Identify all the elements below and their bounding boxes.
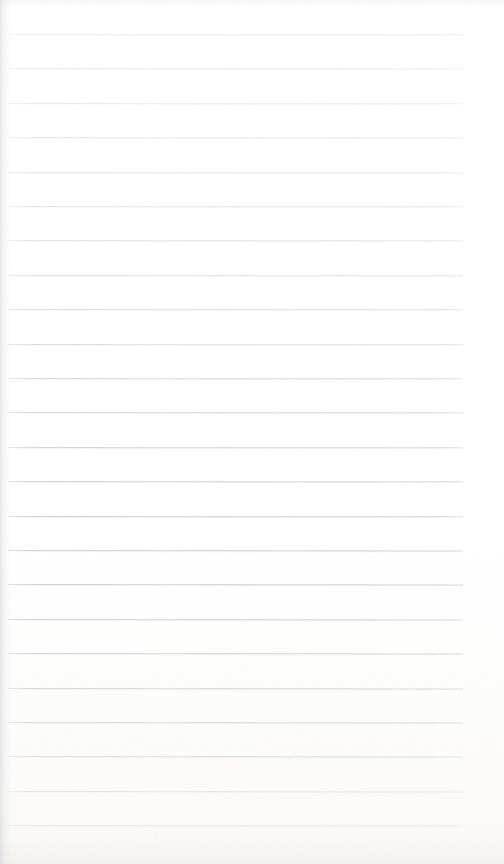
scanned-page [0,0,504,864]
page-content-text [0,0,504,864]
